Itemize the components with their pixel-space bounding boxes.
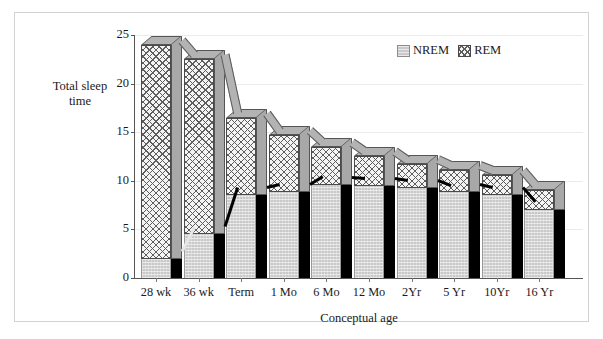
bar-side-nrem — [427, 179, 438, 278]
bar-column[interactable] — [524, 35, 554, 278]
y-tick-label: 20 — [99, 76, 129, 91]
x-tick-mark — [497, 278, 498, 282]
bar-column[interactable] — [141, 35, 171, 278]
y-tick-label: 5 — [99, 221, 129, 236]
y-tick-label: 0 — [99, 270, 129, 285]
bar-side-rem — [214, 50, 225, 234]
bar-segment-nrem[interactable] — [524, 210, 554, 278]
x-tick-mark — [539, 278, 540, 282]
bar-segment-rem[interactable] — [397, 164, 427, 187]
bar-segment-rem[interactable] — [141, 45, 171, 259]
bar-side-rem — [256, 109, 267, 196]
x-tick-mark — [369, 278, 370, 282]
nrem-surface-ribbon — [352, 176, 365, 180]
bar-segment-nrem[interactable] — [354, 186, 384, 278]
chart-frame: Total sleep time NREM REM 0510152025 28 … — [14, 12, 589, 322]
bar-side-nrem — [299, 183, 310, 278]
x-tick-mark — [156, 278, 157, 282]
figure-container: Total sleep time NREM REM 0510152025 28 … — [0, 0, 603, 339]
y-axis-line — [134, 35, 135, 278]
bar-side-nrem — [256, 186, 267, 278]
bar-segment-rem[interactable] — [226, 118, 256, 196]
bar-segment-nrem[interactable] — [141, 259, 171, 278]
x-tick-mark — [199, 278, 200, 282]
bar-column[interactable] — [482, 35, 512, 278]
bar-side-nrem — [341, 176, 352, 278]
plot-area: 0510152025 28 wk36 wkTerm1 Mo6 Mo12 Mo2Y… — [135, 35, 583, 278]
bar-side-nrem — [554, 201, 565, 278]
bar-column[interactable] — [269, 35, 299, 278]
bar-segment-rem[interactable] — [184, 59, 214, 234]
y-tick-label: 15 — [99, 124, 129, 139]
x-tick-mark — [412, 278, 413, 282]
y-tick-label: 25 — [99, 27, 129, 42]
bar-side-nrem — [469, 183, 480, 278]
x-tick-mark — [284, 278, 285, 282]
x-tick-mark — [241, 278, 242, 282]
bar-side-nrem — [512, 186, 523, 278]
bar-side-nrem — [384, 177, 395, 278]
x-tick-label: 16 Yr — [511, 285, 567, 300]
bar-segment-nrem[interactable] — [269, 192, 299, 278]
bar-segment-nrem[interactable] — [311, 185, 341, 278]
x-axis-title: Conceptual age — [135, 311, 583, 326]
bar-segment-rem[interactable] — [354, 156, 384, 186]
bar-column[interactable] — [311, 35, 341, 278]
bar-side-rem — [171, 36, 182, 259]
bar-segment-nrem[interactable] — [482, 195, 512, 278]
x-tick-mark — [326, 278, 327, 282]
bar-column[interactable] — [354, 35, 384, 278]
bar-segment-nrem[interactable] — [439, 192, 469, 278]
bar-segment-nrem[interactable] — [397, 188, 427, 278]
y-tick-label: 10 — [99, 173, 129, 188]
x-tick-mark — [454, 278, 455, 282]
x-axis-line — [134, 278, 583, 279]
y-axis-title-line2: time — [37, 94, 123, 109]
